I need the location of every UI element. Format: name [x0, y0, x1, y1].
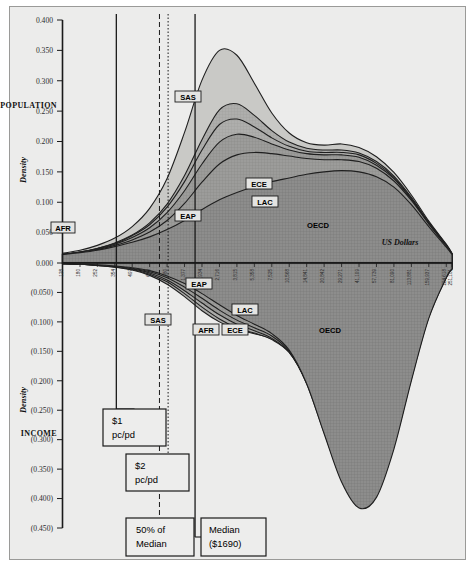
x-tick-label: 20,842 — [320, 269, 325, 283]
x-tick-label: 159,937 — [425, 269, 430, 286]
callout-one-dollar-line2: pc/pd — [112, 429, 135, 440]
y-tick-label: 0.350 — [36, 46, 53, 55]
x-tick-label: 10,568 — [285, 269, 290, 283]
population-section-label: POPULATION — [0, 101, 57, 110]
svg-text:SAS: SAS — [180, 93, 196, 102]
band-eap-income — [63, 263, 453, 509]
region-label-afr-population: AFR — [51, 222, 75, 233]
y-tick-label: (0.400) — [31, 494, 54, 503]
callout-two-dollar-line2: pc/pd — [135, 474, 158, 485]
region-label-sas-income: SAS — [145, 314, 171, 325]
callout-half-median[interactable]: 50% of Median — [126, 518, 194, 556]
x-axis-label: US Dollars — [382, 238, 419, 247]
svg-text:EAP: EAP — [180, 212, 196, 221]
x-tick-label: 128 — [59, 269, 64, 277]
x-tick-label: 2,716 — [215, 269, 220, 281]
x-tick-label: 3,815 — [233, 269, 238, 281]
y-axis-label-population: Density — [19, 157, 28, 184]
region-label-sas-population: SAS — [175, 91, 201, 102]
y-tick-label: (0.100) — [31, 318, 54, 327]
x-tick-label: 57,739 — [372, 269, 377, 283]
figure-root: 0.4000.3500.3000.2500.2000.1500.1000.050… — [0, 0, 476, 567]
chart-canvas: 0.4000.3500.3000.2500.2000.1500.1000.050… — [0, 0, 476, 567]
x-tick-label: 698 — [146, 269, 151, 277]
y-tick-label: 0.200 — [36, 137, 53, 146]
svg-text:AFR: AFR — [55, 224, 71, 233]
y-tick-label: (0.150) — [31, 347, 54, 356]
x-tick-label: 180 — [76, 269, 81, 277]
x-tick-label: 251,181 — [448, 269, 453, 286]
callout-one-dollar-line1: $1 — [112, 415, 122, 426]
x-tick-label: 5,358 — [250, 269, 255, 281]
density-chart-svg: 0.4000.3500.3000.2500.2000.1500.1000.050… — [0, 0, 476, 567]
y-tick-label: (0.200) — [31, 377, 54, 386]
svg-text:LAC: LAC — [237, 306, 253, 315]
svg-text:LAC: LAC — [257, 198, 273, 207]
region-label-eap-population: EAP — [175, 210, 201, 221]
svg-text:ECE: ECE — [251, 180, 267, 189]
x-tick-label: 1,377 — [181, 269, 186, 281]
x-tick-label: 113,881 — [407, 269, 412, 286]
svg-text:SAS: SAS — [150, 316, 166, 325]
y-axis-label-income: Density — [19, 387, 28, 414]
y-tick-label: 0.300 — [36, 77, 53, 86]
region-label-lac-income: LAC — [232, 304, 258, 315]
x-tick-label: 354 — [111, 269, 116, 277]
region-label-oecd-population: OECD — [307, 221, 329, 230]
region-label-ece-population: ECE — [246, 178, 272, 189]
callout-two-dollar[interactable]: $2 pc/pd — [126, 454, 189, 491]
region-label-afr-income: AFR — [193, 324, 219, 335]
callout-median-line2: ($1690) — [209, 538, 241, 549]
x-tick-label: 252 — [93, 269, 98, 277]
callout-two-dollar-line1: $2 — [135, 460, 145, 471]
x-tick-label: 980 — [163, 269, 168, 277]
svg-text:AFR: AFR — [198, 326, 214, 335]
x-tick-label: 7,525 — [268, 269, 273, 281]
y-tick-label: (0.250) — [31, 406, 54, 415]
y-tick-label: (0.350) — [31, 465, 54, 474]
x-tick-label: 497 — [128, 269, 133, 277]
callout-median-line1: Median — [209, 524, 240, 535]
svg-text:ECE: ECE — [227, 326, 243, 335]
income-section-label: INCOME — [21, 429, 57, 438]
region-label-lac-population: LAC — [252, 196, 278, 207]
x-tick-label: 41,109 — [355, 269, 360, 283]
svg-text:EAP: EAP — [191, 280, 207, 289]
y-tick-label: 0.150 — [36, 168, 53, 177]
x-tick-label: 29,271 — [338, 269, 343, 283]
callout-half-median-line1: 50% of — [136, 524, 166, 535]
region-label-ece-income: ECE — [222, 324, 248, 335]
y-tick-label: (0.450) — [31, 524, 54, 533]
x-tick-label: 81,090 — [390, 269, 395, 283]
y-tick-label: 0.000 — [36, 259, 53, 268]
x-tick-label: 14,841 — [303, 269, 308, 283]
callout-one-dollar[interactable]: $1 pc/pd — [103, 409, 166, 446]
region-label-eap-income: EAP — [186, 278, 212, 289]
y-tick-label: 0.100 — [36, 198, 53, 207]
y-tick-label: (0.050) — [31, 288, 54, 297]
region-label-oecd-income: OECD — [319, 326, 341, 335]
x-tick-label: 224,618 — [442, 269, 447, 286]
callout-median[interactable]: Median ($1690) — [201, 518, 266, 556]
y-tick-label: 0.400 — [36, 16, 53, 25]
callout-half-median-line2: Median — [136, 538, 167, 549]
